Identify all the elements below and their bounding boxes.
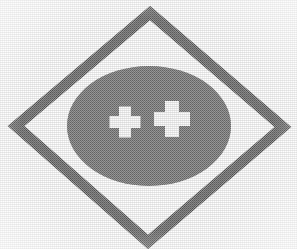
ellipse-group (67, 66, 231, 186)
logo-canvas (0, 0, 297, 249)
logo-graphic (0, 0, 297, 249)
ellipse-tone-overlay (67, 66, 231, 186)
